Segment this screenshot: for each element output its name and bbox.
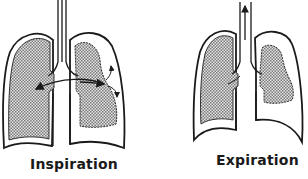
expiration-panel <box>194 2 303 142</box>
left-lung-inflated <box>9 38 54 140</box>
expiration-label: Expiration <box>216 152 299 168</box>
trachea <box>58 0 66 62</box>
inspiration-label: Inspiration <box>30 156 118 172</box>
inspiration-panel <box>3 0 124 148</box>
lung-respiration-diagram: Inspiration Expiration <box>0 0 308 179</box>
